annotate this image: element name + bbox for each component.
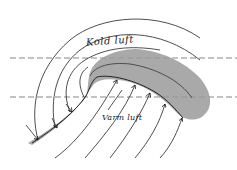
warm-air-label: Varm luft (102, 113, 142, 122)
weather-front-diagram: Kold luft Varm luft (0, 0, 237, 170)
diagram-canvas (0, 0, 237, 170)
